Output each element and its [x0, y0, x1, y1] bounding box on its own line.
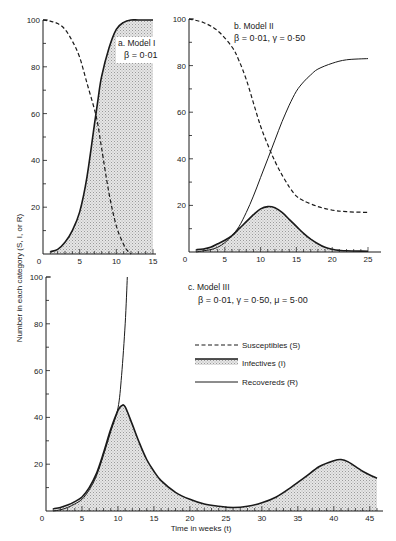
svg-text:45: 45	[365, 514, 374, 523]
svg-text:0: 0	[183, 255, 188, 264]
svg-text:30: 30	[257, 514, 266, 523]
panel-c-title: c. Model III	[188, 282, 230, 292]
svg-text:100: 100	[173, 15, 187, 24]
svg-text:100: 100	[27, 16, 41, 25]
svg-text:40: 40	[329, 514, 338, 523]
svg-text:15: 15	[149, 257, 158, 266]
svg-text:40: 40	[177, 155, 186, 164]
svg-text:5: 5	[77, 257, 82, 266]
svg-text:60: 60	[31, 110, 40, 119]
svg-text:20: 20	[177, 201, 186, 210]
svg-text:80: 80	[34, 320, 43, 329]
panel-model-1: 20406080100051015 a. Model I β = 0·01	[27, 16, 158, 266]
legend-label-susceptibles: Susceptibles (S)	[242, 341, 301, 350]
svg-text:35: 35	[293, 514, 302, 523]
legend: Susceptibles (S) Infectives (I) Recovere…	[195, 341, 301, 387]
svg-text:80: 80	[31, 63, 40, 72]
svg-text:15: 15	[292, 255, 301, 264]
svg-text:25: 25	[221, 514, 230, 523]
svg-text:100: 100	[30, 273, 44, 282]
svg-text:20: 20	[34, 460, 43, 469]
panel-c-params: β = 0·01, γ = 0·50, μ = 5·00	[198, 295, 308, 305]
x-axis-label: Time in weeks (t)	[171, 524, 232, 533]
svg-text:25: 25	[364, 255, 373, 264]
y-axis-label: Number in each category (S, I, or R)	[15, 213, 24, 342]
panel-a-params: β = 0·01	[124, 50, 157, 60]
svg-text:10: 10	[114, 514, 123, 523]
svg-text:20: 20	[185, 514, 194, 523]
panel-model-2: 204060801000510152025 b. Model II β = 0·…	[173, 15, 381, 264]
svg-text:15: 15	[149, 514, 158, 523]
svg-text:80: 80	[177, 62, 186, 71]
svg-text:40: 40	[31, 156, 40, 165]
panel-b-title: b. Model II	[234, 21, 274, 31]
svg-text:5: 5	[223, 255, 228, 264]
legend-label-infectives: Infectives (I)	[242, 359, 286, 368]
svg-text:10: 10	[256, 255, 265, 264]
figure-canvas: 20406080100051015 a. Model I β = 0·01 20…	[0, 0, 396, 541]
svg-text:60: 60	[177, 108, 186, 117]
svg-text:40: 40	[34, 413, 43, 422]
legend-label-recovereds: Recovereds (R)	[242, 378, 298, 387]
svg-text:10: 10	[112, 257, 121, 266]
svg-text:20: 20	[31, 203, 40, 212]
legend-swatch-shaded	[195, 359, 238, 365]
panel-b-params: β = 0·01, γ = 0·50	[234, 33, 305, 43]
svg-text:0: 0	[40, 514, 45, 523]
svg-text:5: 5	[80, 514, 85, 523]
svg-text:20: 20	[328, 255, 337, 264]
panel-model-3: 20406080100051015202530354045 c. Model I…	[30, 273, 383, 523]
panel-a-title: a. Model I	[118, 38, 155, 48]
svg-text:0: 0	[37, 257, 42, 266]
svg-text:60: 60	[34, 367, 43, 376]
